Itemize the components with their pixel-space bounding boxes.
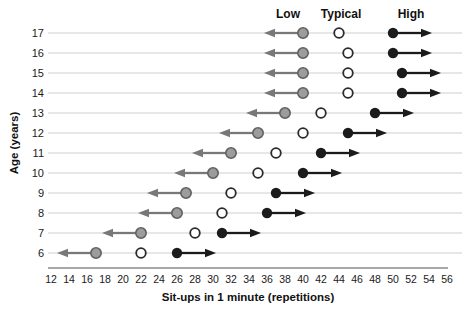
high-dot bbox=[397, 68, 407, 78]
chart-row-age-7: 7 bbox=[38, 227, 462, 239]
age-tick-label: 8 bbox=[38, 207, 44, 219]
low-dot bbox=[91, 248, 101, 258]
low-dot bbox=[181, 188, 191, 198]
low-arrow-head bbox=[264, 49, 275, 58]
low-arrow-head bbox=[138, 209, 149, 218]
high-arrow-head bbox=[205, 249, 216, 258]
low-dot bbox=[226, 148, 236, 158]
chart-row-age-14: 14 bbox=[32, 87, 462, 99]
x-tick-label: 44 bbox=[333, 273, 345, 285]
low-arrow-head bbox=[147, 189, 158, 198]
high-arrow-head bbox=[421, 49, 432, 58]
typical-dot bbox=[136, 248, 146, 258]
x-tick-label: 46 bbox=[351, 273, 363, 285]
age-tick-label: 17 bbox=[32, 27, 44, 39]
x-tick-label: 50 bbox=[387, 273, 399, 285]
x-axis-title: Sit-ups in 1 minute (repetitions) bbox=[162, 291, 335, 303]
typical-dot bbox=[298, 128, 308, 138]
chart-row-age-17: 17 bbox=[32, 27, 462, 39]
plot-area: 6789101112131415161712141618202224262830… bbox=[0, 0, 465, 319]
chart-row-age-8: 8 bbox=[38, 207, 462, 219]
low-arrow-head bbox=[102, 229, 113, 238]
x-tick-label: 54 bbox=[423, 273, 435, 285]
high-arrow-head bbox=[430, 89, 441, 98]
x-tick-label: 18 bbox=[99, 273, 111, 285]
age-tick-label: 15 bbox=[32, 67, 44, 79]
typical-dot bbox=[217, 208, 227, 218]
x-tick-label: 12 bbox=[45, 273, 57, 285]
low-arrow-head bbox=[264, 89, 275, 98]
low-dot bbox=[208, 168, 218, 178]
x-tick-label: 38 bbox=[279, 273, 291, 285]
chart-row-age-10: 10 bbox=[32, 167, 462, 179]
high-dot bbox=[217, 228, 227, 238]
typical-dot bbox=[343, 48, 353, 58]
high-arrow-head bbox=[376, 129, 387, 138]
chart-row-age-15: 15 bbox=[32, 67, 462, 79]
low-dot bbox=[253, 128, 263, 138]
low-dot bbox=[298, 68, 308, 78]
chart-row-age-13: 13 bbox=[32, 107, 462, 119]
x-tick-label: 16 bbox=[81, 273, 93, 285]
typical-dot bbox=[190, 228, 200, 238]
x-tick-label: 14 bbox=[63, 273, 75, 285]
typical-dot bbox=[343, 68, 353, 78]
low-dot bbox=[298, 88, 308, 98]
age-tick-label: 13 bbox=[32, 107, 44, 119]
low-dot bbox=[172, 208, 182, 218]
high-arrow-head bbox=[403, 109, 414, 118]
typical-dot bbox=[271, 148, 281, 158]
age-tick-label: 11 bbox=[33, 147, 44, 159]
low-arrow-head bbox=[264, 69, 275, 78]
high-dot bbox=[370, 108, 380, 118]
high-arrow-head bbox=[349, 149, 360, 158]
low-arrow-head bbox=[219, 129, 230, 138]
typical-dot bbox=[253, 168, 263, 178]
chart-row-age-16: 16 bbox=[32, 47, 462, 59]
x-tick-label: 26 bbox=[171, 273, 183, 285]
high-arrow-head bbox=[250, 229, 261, 238]
age-tick-label: 7 bbox=[38, 227, 44, 239]
high-arrow-head bbox=[421, 29, 432, 38]
x-tick-label: 40 bbox=[297, 273, 309, 285]
high-arrow-head bbox=[295, 209, 306, 218]
high-dot bbox=[397, 88, 407, 98]
x-tick-label: 28 bbox=[189, 273, 201, 285]
x-tick-label: 42 bbox=[315, 273, 327, 285]
x-tick-label: 52 bbox=[405, 273, 417, 285]
x-tick-label: 32 bbox=[225, 273, 237, 285]
chart-row-age-11: 11 bbox=[33, 147, 462, 159]
high-arrow-head bbox=[331, 169, 342, 178]
low-dot bbox=[280, 108, 290, 118]
high-dot bbox=[388, 48, 398, 58]
low-arrow-head bbox=[174, 169, 185, 178]
high-dot bbox=[298, 168, 308, 178]
high-dot bbox=[271, 188, 281, 198]
typical-dot bbox=[334, 28, 344, 38]
chart-row-age-9: 9 bbox=[38, 187, 462, 199]
x-tick-label: 30 bbox=[207, 273, 219, 285]
high-dot bbox=[316, 148, 326, 158]
age-tick-label: 9 bbox=[38, 187, 44, 199]
x-tick-label: 56 bbox=[441, 273, 453, 285]
situps-by-age-chart: Low Typical High Age (years) 67891011121… bbox=[0, 0, 465, 319]
high-dot bbox=[343, 128, 353, 138]
high-dot bbox=[262, 208, 272, 218]
x-tick-label: 22 bbox=[135, 273, 147, 285]
typical-dot bbox=[316, 108, 326, 118]
x-tick-label: 34 bbox=[243, 273, 255, 285]
age-tick-label: 6 bbox=[38, 247, 44, 259]
chart-row-age-12: 12 bbox=[32, 127, 462, 139]
age-tick-label: 14 bbox=[32, 87, 44, 99]
typical-dot bbox=[226, 188, 236, 198]
low-arrow-head bbox=[192, 149, 203, 158]
low-dot bbox=[136, 228, 146, 238]
age-tick-label: 12 bbox=[32, 127, 44, 139]
high-arrow-head bbox=[430, 69, 441, 78]
low-dot bbox=[298, 48, 308, 58]
low-arrow-head bbox=[264, 29, 275, 38]
low-dot bbox=[298, 28, 308, 38]
typical-dot bbox=[343, 88, 353, 98]
age-tick-label: 10 bbox=[32, 167, 44, 179]
x-tick-label: 20 bbox=[117, 273, 129, 285]
